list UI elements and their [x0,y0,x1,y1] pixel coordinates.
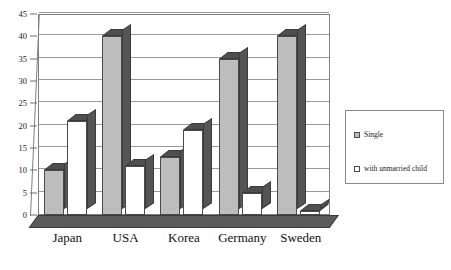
y-axis-tick-label: 20 [19,121,31,130]
x-axis-label-sweden: Sweden [280,230,321,245]
bar-japan-single [44,170,64,215]
chart-floor [29,215,339,228]
y-axis-tick-mark [30,148,37,149]
bar-front-face [219,59,239,215]
legend-label-single: Single [364,130,383,139]
bar-side-face [262,181,271,209]
bar-group [96,14,154,215]
bar-front-face [44,170,64,215]
y-axis-tick-label: 40 [19,32,31,41]
bar-side-face [320,198,329,209]
y-axis-tick-mark [30,170,37,171]
bar-front-face [183,130,203,215]
bar-front-face [125,166,145,215]
bar-germany-single [219,59,239,215]
y-axis-tick-mark [30,36,37,37]
bar-chart: 454035302520151050 JapanUSAKoreaGermanyS… [0,0,451,270]
x-axis-label-korea: Korea [168,230,200,245]
bar-front-face [277,36,297,215]
bar-usa-single [102,36,122,215]
legend-label-with-unmarried-child: with unmarried child [364,164,427,173]
bar-group [38,14,96,215]
bar-group [272,14,330,215]
y-axis-tick-mark [30,103,37,104]
y-axis-tick-mark [30,58,37,59]
bar-japan-child [67,121,87,215]
y-axis-tick-mark [30,81,37,82]
bar-front-face [242,193,262,215]
bars-layer [38,14,330,215]
bar-usa-child [125,166,145,215]
gridline [39,12,329,13]
y-axis-tick-label: 15 [19,144,31,153]
legend-item-with-unmarried-child: with unmarried child [354,164,427,173]
y-axis-tick-label: 10 [19,166,31,175]
y-axis-tick-label: 25 [19,99,31,108]
x-axis-label-usa: USA [113,230,139,245]
y-axis-tick-label: 0 [23,211,30,220]
bar-front-face [160,157,180,215]
y-axis-tick-mark [30,14,37,15]
bar-group [213,14,271,215]
bar-side-face [239,47,248,209]
bar-sweden-single [277,36,297,215]
bar-side-face [297,24,306,209]
bar-side-face [145,154,154,209]
x-axis-labels: JapanUSAKoreaGermanySweden [38,230,338,250]
bar-group [155,14,213,215]
y-axis-tick-mark [30,125,37,126]
bar-front-face [102,36,122,215]
y-axis-tick-mark [30,192,37,193]
bar-side-face [203,118,212,209]
y-axis-tick-label: 45 [19,10,31,19]
bar-front-face [67,121,87,215]
chart-legend: Single with unmarried child [345,110,444,184]
bar-korea-child [183,130,203,215]
y-axis-tick-label: 30 [19,77,31,86]
legend-item-single: Single [354,130,383,139]
x-axis-label-germany: Germany [218,230,266,245]
y-axis-tick-label: 5 [23,188,30,197]
bar-side-face [87,109,96,209]
legend-swatch-single-icon [354,132,360,138]
bar-germany-child [242,193,262,215]
legend-swatch-child-icon [354,166,360,172]
y-axis-tick-mark [30,215,37,216]
y-axis-tick-label: 35 [19,54,31,63]
x-axis-label-japan: Japan [52,230,82,245]
bar-korea-single [160,157,180,215]
